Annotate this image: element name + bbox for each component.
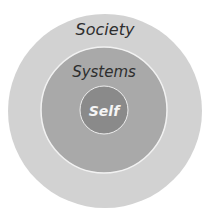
concentric-diagram: Society Systems Self (0, 0, 210, 221)
label-society: Society (76, 20, 135, 39)
label-self: Self (89, 103, 121, 119)
label-systems: Systems (72, 63, 136, 81)
